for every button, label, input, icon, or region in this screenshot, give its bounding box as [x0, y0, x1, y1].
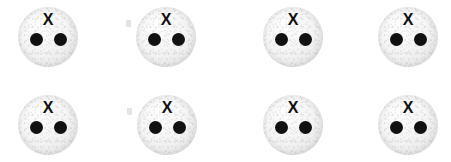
token-dot	[390, 33, 403, 46]
token-dot-group	[18, 33, 78, 46]
token-dot-group	[263, 121, 323, 134]
token-dot	[275, 121, 288, 134]
token-dot	[149, 121, 162, 134]
token-label: X	[263, 11, 323, 29]
token-label: X	[18, 11, 78, 29]
token-label: X	[137, 99, 197, 117]
token-label: X	[18, 99, 78, 117]
scan-artifact	[126, 20, 131, 27]
token-dot	[275, 33, 288, 46]
token-dot-group	[137, 121, 197, 134]
token-dot-group	[263, 33, 323, 46]
token-dot-group	[378, 121, 438, 134]
token-dot	[414, 121, 427, 134]
token-2-3[interactable]: X	[263, 95, 323, 155]
token-label: X	[378, 11, 438, 29]
token-grid-canvas: XXXXXXXX	[0, 0, 451, 162]
token-1-3[interactable]: X	[263, 7, 323, 67]
token-1-2[interactable]: X	[136, 7, 196, 67]
token-dot-group	[18, 121, 78, 134]
token-dot	[299, 121, 312, 134]
token-label: X	[378, 99, 438, 117]
token-dot	[30, 121, 43, 134]
token-dot	[299, 33, 312, 46]
token-label: X	[136, 11, 196, 29]
token-dot	[54, 33, 67, 46]
token-dot	[173, 121, 186, 134]
token-dot	[30, 33, 43, 46]
token-label: X	[263, 99, 323, 117]
token-dot	[54, 121, 67, 134]
token-dot	[414, 33, 427, 46]
token-2-1[interactable]: X	[18, 95, 78, 155]
token-dot-group	[136, 33, 196, 46]
scan-artifact	[127, 108, 132, 115]
token-1-4[interactable]: X	[378, 7, 438, 67]
token-dot	[148, 33, 161, 46]
token-1-1[interactable]: X	[18, 7, 78, 67]
token-dot	[390, 121, 403, 134]
token-2-2[interactable]: X	[137, 95, 197, 155]
token-2-4[interactable]: X	[378, 95, 438, 155]
token-dot	[172, 33, 185, 46]
token-dot-group	[378, 33, 438, 46]
